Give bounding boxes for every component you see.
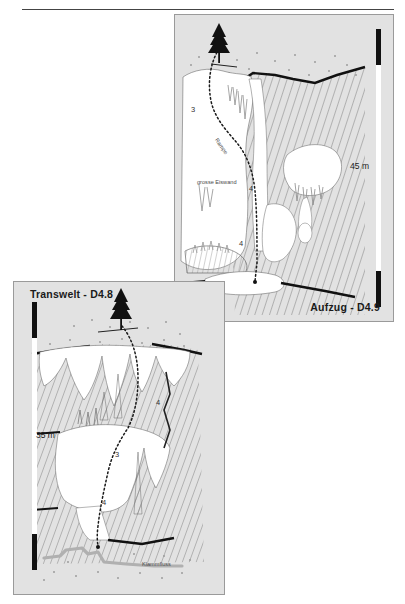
panel-aufzug: 45 m 3 4 4 grosse Eiswand Rampe Aufzug -… (174, 14, 394, 322)
route-number-3: 3 (191, 105, 195, 114)
route-number-4-lower: 4 (239, 239, 243, 248)
scale-label-aufzug: 45 m (350, 161, 369, 171)
panel-title-transwelt: Transwelt - D4.8 (30, 288, 113, 300)
panel-transwelt: 35 m 4 3 4 Klammfluss Transwelt - D4.8 (13, 281, 225, 595)
route-number-4-upper: 4 (249, 184, 253, 193)
surface-stipple (49, 319, 185, 347)
survey-station-end (253, 280, 257, 284)
feature-label-klammfluss: Klammfluss (142, 561, 171, 567)
conifer-tree-icon (208, 23, 230, 63)
entrance-ground-tick (98, 328, 138, 332)
route-number-3: 3 (115, 450, 119, 459)
page-header-rule (22, 9, 394, 10)
survey-station-end (96, 545, 100, 549)
feature-label-eiswand: grosse Eiswand (197, 179, 237, 185)
scale-bar-aufzug (376, 65, 381, 271)
route-number-4-lower: 4 (102, 498, 106, 507)
scale-label-transwelt: 35 m (36, 430, 55, 440)
conifer-tree-icon (110, 288, 132, 330)
entrance-ground-tick (211, 64, 237, 67)
panel-title-aufzug: Aufzug - D4.9 (310, 301, 380, 313)
survey-page: 45 m 3 4 4 grosse Eiswand Rampe Aufzug -… (0, 0, 405, 604)
ice-drop (298, 223, 312, 243)
route-number-4-upper: 4 (156, 398, 160, 407)
